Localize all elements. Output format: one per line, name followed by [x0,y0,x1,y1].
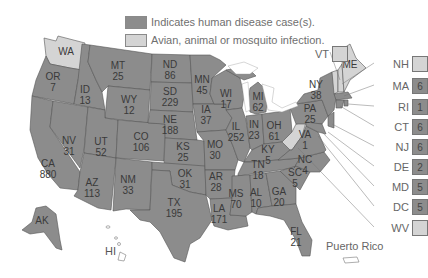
state-cases: 195 [166,208,183,219]
callout-NH: NH [383,56,428,72]
state-abbr: FL [290,226,302,237]
callout-box: 2 [412,159,428,175]
callout-DE: DE2 [383,159,428,175]
state-abbr: SC [288,167,302,178]
state-cases: 1 [302,140,308,151]
state-abbr: OK [178,168,193,179]
state-abbr: TX [168,197,181,208]
state-abbr: VA [299,129,312,140]
state-abbr: OR [46,71,61,82]
callout-label: MD [383,181,409,193]
callout-VT-label: VT [315,48,329,60]
state-abbr: MT [111,60,125,71]
callout-label: NH [383,58,409,70]
state-cases: 38 [310,90,322,101]
state-abbr: GA [272,186,287,197]
state-cases: 188 [162,125,179,136]
state-abbr: IA [201,104,211,115]
callout-VT-box [332,46,348,62]
state-label-ND: ND86 [163,59,177,81]
state-cases: 5 [265,155,271,166]
state-cases: 33 [122,185,134,196]
state-label-TX: TX195 [166,197,183,219]
state-cases: 113 [84,188,100,199]
state-cases: 37 [200,115,212,126]
callout-label: WV [383,222,409,234]
state-cases: 18 [252,170,264,181]
puerto-rico-label: Puerto Rico [326,240,383,252]
state-abbr: NV [62,135,76,146]
hawaii-label: HI [105,245,116,257]
state-label-LA: LA171 [211,203,228,225]
state-abbr: MO [207,139,223,150]
state-label-GA: GA20 [272,186,287,208]
state-label-AZ: AZ113 [84,177,100,199]
callout-MD: MD5 [383,179,428,195]
state-cases: 61 [268,131,280,142]
state-abbr: MS [229,188,244,199]
state-abbr: WA [58,46,74,57]
state-cases: 229 [162,97,179,108]
state-label-WY: WY12 [121,94,137,116]
state-abbr: MI [252,91,263,102]
state-cases: 5 [292,178,298,189]
state-abbr: NY [309,79,323,90]
state-abbr: IL [232,121,241,132]
state-label-WI: WI17 [220,88,232,110]
state-label-UT: UT52 [94,136,107,158]
callout-box: 5 [412,199,428,215]
callout-DC: DC5 [383,199,428,215]
state-label-SD: SD229 [162,86,179,108]
state-abbr: KS [176,141,190,152]
state-label-PA: PA25 [304,103,317,125]
state-cases: 86 [164,70,176,81]
state-cases: 17 [220,99,232,110]
callout-box: 6 [412,119,428,135]
state-abbr: AK [35,215,49,226]
state-abbr: MN [194,74,210,85]
state-abbr: WY [121,94,137,105]
state-cases: 13 [79,95,91,106]
state-cases: 4 [302,165,308,176]
state-label-SC: SC5 [288,167,302,189]
state-label-IN: IN23 [248,119,260,141]
callout-label: NJ [383,141,409,153]
callout-label: RI [383,101,409,113]
state-abbr: WI [220,88,232,99]
state-label-MT: MT25 [111,60,125,82]
state-label-NM: NM33 [120,174,136,196]
state-cases: 880 [40,169,57,180]
state-abbr: TN [251,159,264,170]
callout-RI: RI1 [383,99,428,115]
state-label-IL: IL252 [228,121,245,143]
state-cases: 106 [133,142,150,153]
callout-NJ: NJ6 [383,139,428,155]
state-label-IA: IA37 [200,104,212,126]
callout-label: DE [383,161,409,173]
state-label-KS: KS25 [176,141,190,163]
callout-box: 6 [412,78,428,94]
state-abbr: AZ [86,177,99,188]
state-label-OH: OH61 [267,120,282,142]
state-cases: 7 [50,82,56,93]
state-cases: 10 [250,198,262,209]
callout-WV: WV [383,220,428,236]
state-cases: 20 [273,197,285,208]
state-cases: 25 [112,71,124,82]
state-label-FL: FL21 [290,226,302,248]
callout-box: 1 [412,99,428,115]
state-cases: 52 [95,147,107,158]
state-abbr: PA [304,103,317,114]
state-label-OR: OR7 [46,71,61,93]
state-cases: 62 [252,102,264,113]
callout-VT: VT [315,46,348,62]
state-label-NV: NV31 [62,135,76,157]
state-label-OK: OK31 [178,168,193,190]
state-label-CO: CO106 [133,131,150,153]
state-abbr: SD [163,86,177,97]
state-cases: 23 [248,130,260,141]
state-abbr: OH [267,120,282,131]
state-abbr: UT [94,136,107,147]
state-cases: 28 [210,182,222,193]
state-label-MO: MO30 [207,139,223,161]
